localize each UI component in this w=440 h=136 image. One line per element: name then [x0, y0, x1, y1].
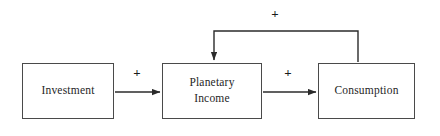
polarity-sign-investment-to-income: +: [130, 66, 144, 79]
node-planetary-income: Planetary Income: [162, 63, 262, 119]
node-consumption: Consumption: [318, 63, 415, 119]
node-investment: Investment: [22, 63, 114, 119]
arrow-consumption-to-income-feedback: [214, 31, 358, 62]
polarity-sign-income-to-consumption: +: [281, 66, 295, 79]
polarity-sign-consumption-to-income-feedback: +: [268, 7, 282, 20]
node-consumption-label: Consumption: [334, 83, 398, 99]
causal-loop-diagram: Investment Planetary Income Consumption …: [0, 0, 440, 136]
node-investment-label: Investment: [41, 83, 94, 99]
node-planetary-income-label: Planetary Income: [189, 75, 234, 106]
